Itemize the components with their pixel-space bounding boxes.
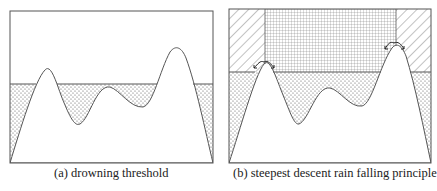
panel-a-diagram	[10, 11, 213, 163]
grid-region	[265, 9, 396, 72]
terrain-curve	[10, 48, 213, 163]
caption-b: (b) steepest descent rain falling princi…	[233, 166, 437, 181]
caption-a: (a) drowning threshold	[54, 166, 169, 181]
panel-b-diagram	[229, 9, 431, 163]
